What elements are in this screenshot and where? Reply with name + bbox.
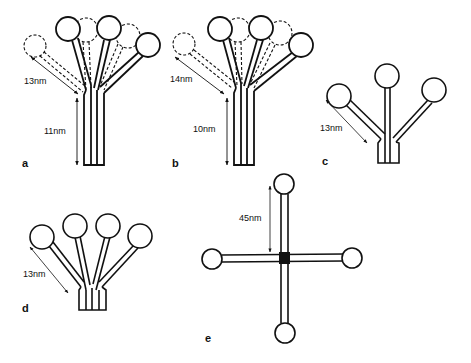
arm-length-label-b: 14nm	[170, 74, 193, 84]
panel-c	[326, 64, 446, 163]
panel-label-c: c	[322, 155, 328, 167]
panel-b	[173, 16, 313, 165]
arm-length-label-a: 13nm	[24, 76, 47, 86]
arm-length-label-e: 45nm	[239, 213, 262, 223]
panel-label-b: b	[172, 157, 179, 169]
panel-label-e: e	[205, 332, 211, 344]
panel-d	[30, 214, 152, 310]
molecular-structure-figure: 13nm 11nm a 14nm 10nm b	[0, 0, 471, 363]
arm-length-label-d: 13nm	[23, 269, 46, 279]
stem-length-label-b: 10nm	[193, 124, 216, 134]
panel-e	[202, 174, 362, 343]
panel-label-a: a	[22, 157, 29, 169]
panel-a	[24, 16, 160, 165]
arm-length-label-c: 13nm	[320, 123, 343, 133]
panel-label-d: d	[22, 302, 29, 314]
stem-length-label-a: 11nm	[44, 126, 66, 136]
